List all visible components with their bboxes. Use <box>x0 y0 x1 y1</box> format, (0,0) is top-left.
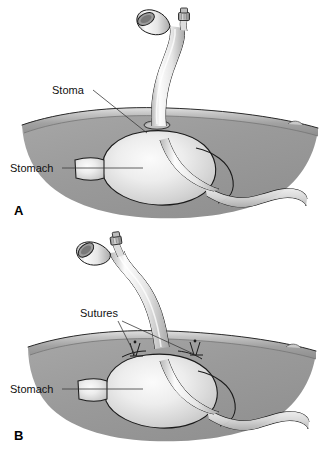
label-stomach-b: Stomach <box>10 383 53 395</box>
tube-balloon-port-a <box>179 8 190 31</box>
label-sutures: Sutures <box>80 307 118 319</box>
label-stomach-a: Stomach <box>10 162 53 174</box>
tube-feeding-port-b <box>76 240 111 265</box>
label-stoma: Stoma <box>52 84 85 96</box>
cardia-b <box>78 379 107 402</box>
panel-letter-a: A <box>14 203 24 218</box>
panel-a: Stoma Stomach A <box>0 0 327 225</box>
panel-b: Sutures Stomach B <box>0 225 327 450</box>
cardia-a <box>75 158 104 181</box>
figure-gastrostomy-tube: Stoma Stomach A <box>0 0 327 450</box>
panel-letter-b: B <box>14 428 23 443</box>
tube-feeding-port-a <box>135 10 170 35</box>
